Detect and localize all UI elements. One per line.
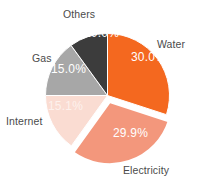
slice-value-others: 10.0% (84, 26, 119, 40)
slice-label-water: Water (157, 38, 185, 50)
slice-label-internet: Internet (6, 115, 42, 127)
slice-value-gas: 15.0% (51, 62, 86, 76)
slice-value-water: 30.0% (131, 50, 166, 64)
slice-label-others: Others (63, 8, 95, 20)
slice-value-internet: 15.1% (48, 99, 83, 113)
slice-value-electricity: 29.9% (113, 126, 148, 140)
slice-label-gas: Gas (32, 52, 52, 64)
slice-label-electricity: Electricity (123, 164, 169, 176)
pie-chart: 30.0% 29.9% 15.1% 15.0% 10.0% Water Elec… (0, 0, 202, 189)
